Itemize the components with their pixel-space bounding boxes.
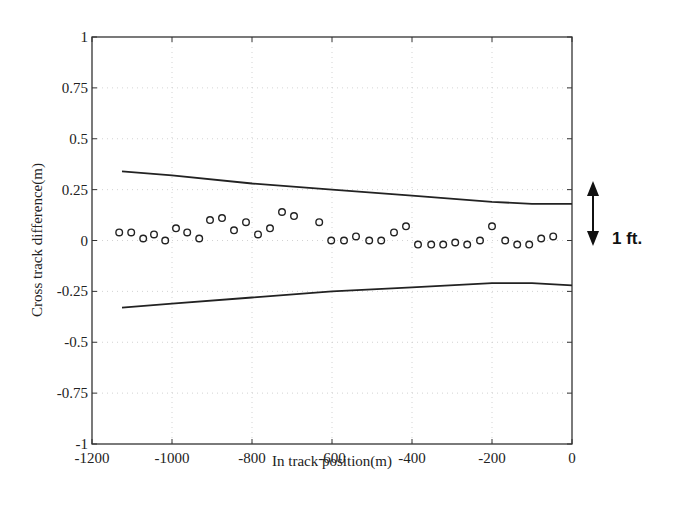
x-tick-label: -1200 (75, 450, 110, 466)
data-point-marker (341, 237, 348, 244)
data-point-marker (428, 241, 435, 248)
x-axis-ticks: -1200-1000-800-600-400-2000 (75, 37, 576, 466)
data-point-marker (196, 235, 203, 242)
lower-bound-line (122, 283, 572, 308)
data-point-marker (279, 209, 286, 216)
data-point-marker (464, 241, 471, 248)
data-point-marker (353, 233, 360, 240)
data-point-marker (291, 213, 298, 220)
data-point-marker (489, 223, 496, 230)
data-point-marker (403, 223, 410, 230)
data-point-marker (231, 227, 238, 234)
y-axis-label: Cross track difference(m) (29, 163, 46, 317)
data-point-marker (207, 217, 214, 224)
data-point-marker (550, 233, 557, 240)
y-tick-label: 0.25 (62, 182, 88, 198)
data-point-marker (316, 219, 323, 226)
y-tick-label: -0.5 (64, 334, 88, 350)
data-point-marker (116, 229, 123, 236)
y-tick-label: -0.75 (57, 385, 88, 401)
data-point-marker (219, 215, 226, 222)
x-tick-label: -800 (238, 450, 266, 466)
data-point-marker (140, 235, 147, 242)
double-arrow-icon (587, 181, 599, 246)
y-tick-label: 0.75 (62, 80, 88, 96)
data-point-marker (243, 219, 250, 226)
data-point-marker (151, 231, 158, 238)
data-point-marker (267, 225, 274, 232)
x-tick-label: 0 (568, 450, 576, 466)
y-tick-label: 1 (81, 29, 89, 45)
data-point-marker (366, 237, 373, 244)
data-point-marker (128, 229, 135, 236)
data-point-marker (328, 237, 335, 244)
data-point-marker (526, 241, 533, 248)
data-point-marker (440, 241, 447, 248)
data-point-marker (391, 229, 398, 236)
upper-bound-line (122, 171, 572, 204)
scale-annotation-label: 1 ft. (612, 229, 642, 248)
data-point-marker (452, 239, 459, 246)
data-point-marker (255, 231, 262, 238)
x-axis-label: In track position(m) (272, 453, 392, 470)
y-tick-label: -1 (76, 436, 89, 452)
y-tick-label: 0.5 (69, 131, 88, 147)
x-tick-label: -1000 (155, 450, 190, 466)
data-point-marker (538, 235, 545, 242)
data-point-marker (184, 229, 191, 236)
x-tick-label: -200 (478, 450, 506, 466)
data-points (116, 209, 557, 248)
scale-annotation: 1 ft. (587, 181, 642, 248)
y-tick-label: 0 (81, 233, 89, 249)
x-tick-label: -400 (398, 450, 426, 466)
y-axis-ticks: 10.750.50.250-0.25-0.5-0.75-1 (57, 29, 572, 452)
chart: -1200-1000-800-600-400-2000 10.750.50.25… (0, 0, 677, 506)
data-point-marker (415, 241, 422, 248)
data-point-marker (378, 237, 385, 244)
data-point-marker (173, 225, 180, 232)
y-tick-label: -0.25 (57, 283, 88, 299)
gridlines (92, 37, 572, 444)
data-point-marker (514, 241, 521, 248)
